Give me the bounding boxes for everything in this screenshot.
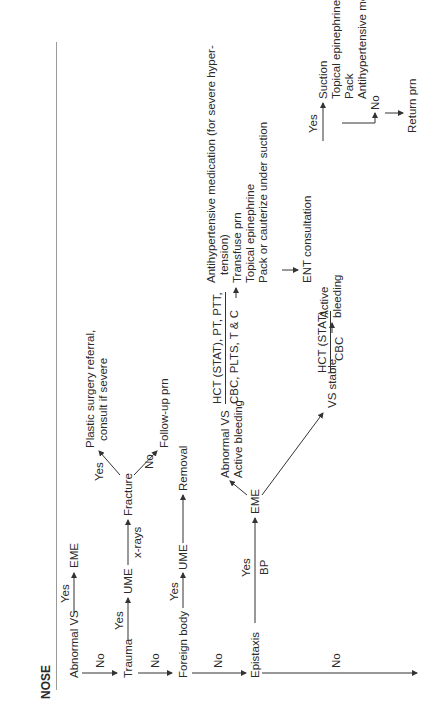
result-fracture: Fracture [122,473,135,516]
stable-yes-label: Yes [307,114,320,133]
result-eme: EME [68,543,81,568]
ent-consultation: ENT consultation [301,196,314,283]
fracture-no-label: No [143,454,156,469]
stable-tests-line1: HCT (STAT) [316,311,331,373]
action-tension: tension) [218,234,231,275]
stable-no-label: No [369,95,382,110]
action-transfuse: Transfuse prn [231,212,244,283]
decision-active: Active [318,287,331,318]
condition-foreign-body: Foreign body [177,611,190,678]
decision-bleeding: bleeding [331,275,344,318]
no-label: No [212,653,225,668]
tests-line2: CBC, PLTS, T & C [228,310,241,404]
result-ume: UME [122,568,135,594]
stable-action-antihypertensive: Antihypertensive medication, if indicate… [356,0,369,99]
stable-action-suction: Suction [317,61,330,99]
result-ume: UME [177,544,190,570]
condition-trauma: Trauma [122,639,135,678]
branch-abnormal-vs: Abnormal VS [219,410,232,478]
yes-label: Yes [113,611,126,630]
action-antihypertensive: Antihypertensive medication (for severe … [205,45,218,283]
fracture-yes-result-line1: Plastic surgery referral, [84,330,97,448]
yes-label: Yes [59,584,72,603]
yes-label: Yes [240,558,253,577]
action-topical-epinephrine: Topical epinephrine [244,184,257,283]
nose-flowchart-page: NOSE [0,0,440,713]
no-label: No [94,653,107,668]
stable-tests-line2: CBC [333,337,346,361]
yes-label: Yes [168,582,181,601]
result-removal: Removal [177,446,190,491]
condition-abnormal-vs: Abnormal VS [68,610,81,678]
branch-active-bleeding: Active bleeding [232,400,245,478]
bp-label: BP [258,560,271,575]
fracture-no-result: Follow-up prn [158,378,171,448]
fracture-yes-result-line2: consult if severe [97,358,110,441]
condition-epistaxis: Epistaxis [249,632,262,678]
tests-line1: HCT (STAT), PT, PTT, [211,292,226,404]
action-pack-cauterize: Pack or cauterize under suction [257,122,270,283]
result-eme: EME [249,489,262,514]
stable-action-pack: Pack [343,73,356,99]
stable-return-prn: Return prn [406,79,419,133]
no-label: No [330,653,343,668]
fracture-yes-label: Yes [93,462,106,481]
step-label-x-rays: x-rays [131,527,144,558]
no-label: No [149,653,162,668]
stable-action-topical-epinephrine: Topical epinephrine [330,0,343,99]
